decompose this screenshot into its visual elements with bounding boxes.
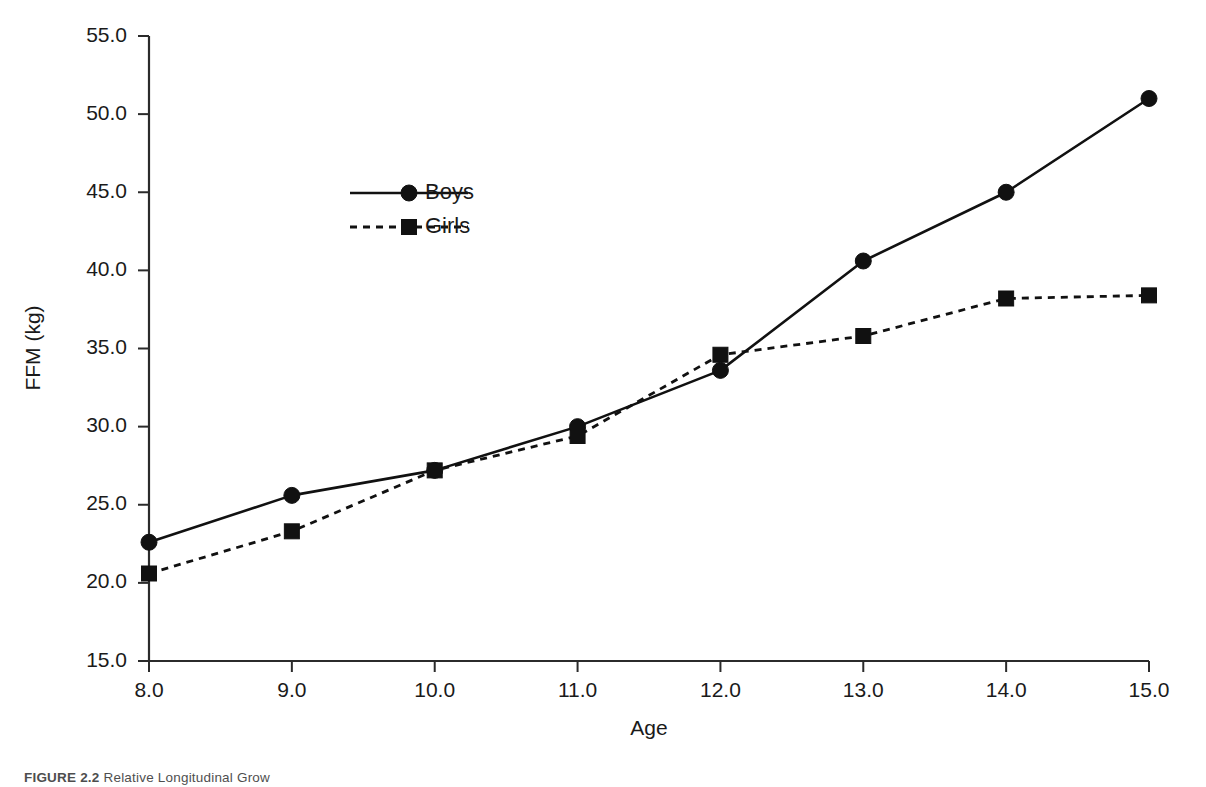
y-tick-label: 30.0 (86, 413, 127, 436)
y-tick-label: 35.0 (86, 335, 127, 358)
caption-figure-number: FIGURE 2.2 (24, 770, 100, 785)
x-tick-label: 14.0 (986, 678, 1027, 701)
x-tick-label: 12.0 (700, 678, 741, 701)
x-tick-label: 11.0 (558, 678, 597, 701)
data-point-girls-11.0 (570, 429, 585, 444)
series-girls (142, 288, 1157, 581)
caption-text: Relative Longitudinal Grow (103, 770, 270, 785)
y-tick-label: 40.0 (86, 257, 127, 280)
data-point-boys-14.0 (998, 184, 1014, 200)
y-tick-label: 55.0 (86, 23, 127, 46)
x-tick-label: 8.0 (134, 678, 163, 701)
x-tick-label: 13.0 (843, 678, 884, 701)
y-axis-ticks: 15.020.025.030.035.040.045.050.055.0 (86, 23, 149, 671)
figure-caption: FIGURE 2.2 Relative Longitudinal Grow (24, 770, 270, 785)
y-tick-label: 45.0 (86, 179, 127, 202)
y-axis-title: FFM (kg) (21, 305, 44, 390)
data-point-girls-12.0 (713, 347, 728, 362)
y-tick-label: 50.0 (86, 101, 127, 124)
x-tick-label: 15.0 (1129, 678, 1170, 701)
y-tick-label: 20.0 (86, 569, 127, 592)
x-tick-label: 10.0 (414, 678, 455, 701)
legend-entry-girls: Girls (350, 213, 470, 238)
data-point-girls-15.0 (1142, 288, 1157, 303)
series-boys (141, 91, 1157, 551)
data-point-boys-12.0 (712, 362, 728, 378)
legend-entry-boys: Boys (350, 179, 474, 204)
data-point-boys-9.0 (284, 487, 300, 503)
data-point-girls-8.0 (142, 566, 157, 581)
y-tick-label: 15.0 (86, 648, 127, 671)
data-point-boys-15.0 (1141, 91, 1157, 107)
legend-marker-girls (402, 220, 417, 235)
y-tick-label: 25.0 (86, 491, 127, 514)
figure-container: 15.020.025.030.035.040.045.050.055.0 8.0… (0, 0, 1206, 787)
data-point-boys-8.0 (141, 534, 157, 550)
data-series-layer (141, 91, 1157, 582)
data-point-girls-14.0 (999, 291, 1014, 306)
line-chart: 15.020.025.030.035.040.045.050.055.0 8.0… (0, 0, 1206, 787)
legend-label-boys: Boys (425, 179, 474, 204)
series-line-boys (149, 99, 1149, 543)
legend-label-girls: Girls (425, 213, 470, 238)
x-axis-ticks: 8.09.010.011.012.013.014.015.0 (134, 661, 1169, 701)
data-point-boys-13.0 (855, 253, 871, 269)
legend-marker-boys (401, 185, 417, 201)
chart-legend: BoysGirls (350, 179, 474, 238)
data-point-girls-10.0 (427, 463, 442, 478)
data-point-girls-13.0 (856, 329, 871, 344)
x-tick-label: 9.0 (277, 678, 306, 701)
axes (149, 36, 1149, 661)
data-point-girls-9.0 (284, 524, 299, 539)
x-axis-title: Age (630, 716, 667, 739)
